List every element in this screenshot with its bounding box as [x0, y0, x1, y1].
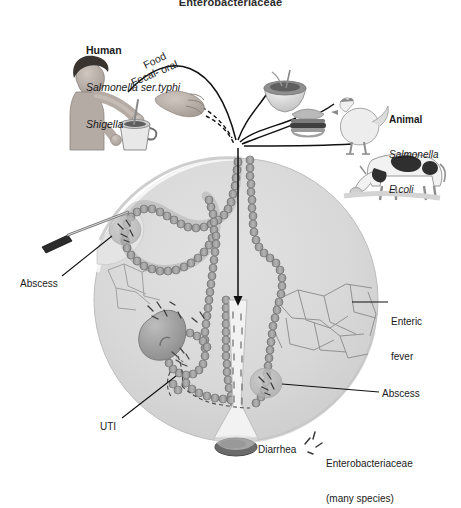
enteric-fever-line-2: fever	[391, 351, 422, 363]
bacilli-rods-icon	[305, 432, 322, 454]
legend-line-1: Enterobacteriaceae	[326, 458, 413, 470]
enteric-fever-line-1: Enteric	[391, 316, 422, 328]
animal-source-label: Animal Salmonella E.coli	[389, 90, 438, 208]
animal-heading: Animal	[389, 114, 438, 126]
animal-organism-2: E.coli	[389, 184, 438, 196]
human-organism-2: Shigella	[86, 118, 180, 130]
hamburger-icon	[290, 109, 326, 137]
outcome-enteric-fever-label: Enteric fever	[391, 292, 422, 375]
chicken-icon	[331, 98, 388, 154]
animal-organism-1: Salmonella	[389, 149, 438, 161]
outcome-diarrhea-label: Diarrhea	[258, 444, 296, 456]
salad-bowl-icon	[264, 70, 306, 112]
human-heading: Human	[86, 44, 180, 56]
outcome-abscess-left-label: Abscess	[20, 278, 58, 290]
legend-line-2: (many species)	[326, 493, 413, 505]
abscess-right-nodule	[250, 368, 282, 398]
outcome-uti-label: UTI	[100, 421, 116, 433]
abscess-left-nodule	[109, 215, 141, 245]
legend-text: Enterobacteriaceae (many species)	[326, 434, 413, 508]
outcome-abscess-right-label: Abscess	[382, 388, 420, 400]
